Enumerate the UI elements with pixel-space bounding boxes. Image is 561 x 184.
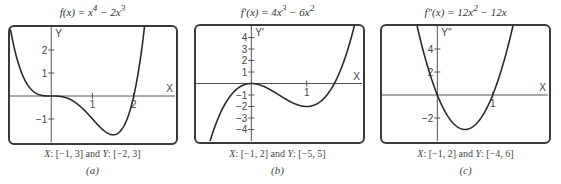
function-curve-a [10, 27, 175, 135]
x-axis-label: X [539, 82, 546, 93]
y-axis-label: Y [55, 28, 62, 39]
sublabel-a: (a) [0, 164, 185, 176]
graph-title-b: f′(x) = 4x3 − 6x2 [185, 3, 370, 18]
y-tick-label: 4 [428, 44, 434, 55]
calculator-screen-a: 1221−1XY [8, 25, 178, 145]
y-tick-label: −2 [422, 113, 434, 124]
graph-panel-b: f′(x) = 4x3 − 6x2 14321−1−2−3−4XY′ X: [−… [185, 0, 370, 184]
x-tick-label: 1 [304, 87, 310, 98]
y-tick-label: 2 [242, 55, 248, 66]
sublabel-b: (b) [185, 164, 370, 176]
y-tick-label: −1 [236, 90, 248, 101]
y-axis-label: Y′′ [441, 27, 452, 38]
graph-panel-c: f″(x) = 12x2 − 12x 142−2XY′′ X: [−1, 2] … [370, 0, 561, 184]
y-tick-label: −4 [236, 124, 248, 135]
y-tick-label: 1 [42, 68, 48, 79]
window-range-caption-a: X: [−1, 3] and Y: [−2, 3] [0, 148, 185, 159]
y-tick-label: −2 [236, 101, 248, 112]
window-range-caption-b: X: [−1, 2] and Y: [−5, 5] [185, 148, 370, 159]
calculator-screen-c: 142−2XY′′ [380, 24, 551, 144]
function-curve-c [382, 26, 548, 130]
graph-panel-a: f(x) = x4 − 2x3 1221−1XY X: [−1, 3] and … [0, 0, 185, 184]
y-tick-label: −1 [36, 114, 48, 125]
graph-title-a: f(x) = x4 − 2x3 [0, 3, 185, 18]
y-tick-label: 4 [242, 32, 248, 43]
x-tick-label: 1 [90, 99, 96, 110]
y-axis-label: Y′ [255, 27, 264, 38]
plot-area-a: 1221−1XY [10, 27, 175, 142]
y-tick-label: 1 [242, 67, 248, 78]
plot-area-b: 14321−1−2−3−4XY′ [196, 26, 362, 141]
x-axis-label: X [353, 71, 360, 82]
y-tick-label: 3 [242, 44, 248, 55]
plot-area-c: 142−2XY′′ [382, 26, 548, 141]
graph-title-c: f″(x) = 12x2 − 12x [370, 3, 561, 18]
window-range-caption-c: X: [−1, 2] and Y: [−4, 6] [370, 148, 561, 159]
y-tick-label: −3 [236, 113, 248, 124]
calculator-screen-b: 14321−1−2−3−4XY′ [194, 24, 365, 144]
sublabel-c: (c) [370, 164, 561, 176]
x-axis-label: X [166, 83, 173, 94]
y-tick-label: 2 [42, 45, 48, 56]
